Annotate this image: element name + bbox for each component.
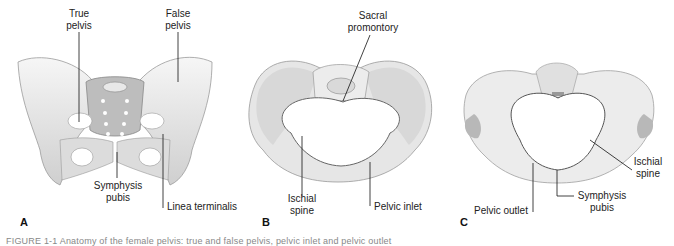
label-pelvic-outlet: Pelvic outlet: [474, 205, 528, 217]
panel-c: Ischial spine Pelvic outlet Symphysis pu…: [444, 0, 674, 241]
label-true-pelvis: True pelvis: [64, 8, 94, 32]
label-ischial-spine: Ischial spine: [630, 156, 666, 180]
label-pelvic-inlet: Pelvic inlet: [374, 201, 422, 213]
label-false-pelvis: False pelvis: [162, 8, 194, 32]
figure-caption: FIGURE 1-1 Anatomy of the female pelvis:…: [6, 236, 391, 246]
panel-letter-b: B: [262, 216, 270, 228]
label-sacral-promontory: Sacral promontory: [338, 10, 408, 34]
panel-a: True pelvis False pelvis Symphysis pubis…: [0, 0, 230, 241]
panel-letter-c: C: [460, 216, 468, 228]
label-symphysis-pubis: Symphysis pubis: [90, 180, 146, 204]
panel-b: Sacral promontory Ischial spine Pelvic i…: [225, 0, 450, 241]
panel-letter-a: A: [20, 216, 28, 228]
label-symphysis-pubis: Symphysis pubis: [574, 190, 630, 214]
label-ischial-spine: Ischial spine: [284, 193, 320, 217]
